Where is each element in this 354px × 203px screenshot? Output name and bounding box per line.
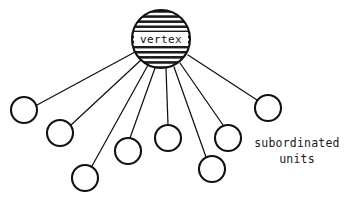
vertex-star-diagram: vertex subordinated units bbox=[0, 0, 354, 203]
vertex-node[interactable]: vertex bbox=[132, 10, 190, 68]
subordinate-node-1[interactable] bbox=[11, 97, 37, 123]
subordinate-node-4[interactable] bbox=[115, 138, 141, 164]
vertex-label: vertex bbox=[140, 33, 182, 46]
subordinate-node-6[interactable] bbox=[215, 125, 241, 151]
subordinate-node-5[interactable] bbox=[155, 125, 181, 151]
subordinate-node-8[interactable] bbox=[255, 95, 281, 121]
caption-line-2: units bbox=[279, 152, 315, 166]
subordinate-node-2[interactable] bbox=[47, 120, 73, 146]
caption-line-1: subordinated bbox=[254, 136, 339, 150]
diagram-canvas: vertex subordinated units bbox=[0, 0, 354, 203]
subordinate-node-3[interactable] bbox=[72, 165, 98, 191]
subordinate-node-7[interactable] bbox=[199, 156, 225, 182]
